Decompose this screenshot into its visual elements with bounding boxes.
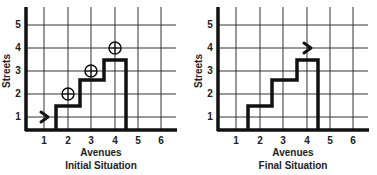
grid-lines [217,7,368,130]
x-tick: 4 [112,135,118,146]
y-axis-label: Streets [1,54,12,88]
panel-title: Final Situation [259,160,328,171]
panel-initial: 1 2 3 4 5 Streets 1 2 3 4 5 6 Avenues In… [1,7,177,171]
y-ticks: 1 2 3 4 5 [207,19,213,122]
boundary-walls [25,7,177,131]
beeper-icon [85,65,97,77]
x-tick: 4 [304,135,310,146]
y-tick: 2 [207,88,213,99]
y-ticks: 1 2 3 4 5 [15,19,21,122]
y-tick: 2 [15,88,21,99]
x-tick: 3 [88,135,94,146]
y-tick: 4 [15,42,21,53]
karel-diagram: 1 2 3 4 5 Streets 1 2 3 4 5 6 Avenues In… [0,0,377,175]
x-tick: 5 [327,135,333,146]
x-axis-label: Avenues [80,147,122,158]
y-tick: 4 [207,42,213,53]
y-tick: 5 [15,19,21,30]
x-tick: 3 [280,135,286,146]
x-tick: 2 [257,135,263,146]
beeper-icon [62,88,74,100]
y-tick: 3 [15,65,21,76]
boundary-walls [217,7,369,131]
x-tick: 1 [233,135,239,146]
x-tick: 5 [135,135,141,146]
panel-final: 1 2 3 4 5 Streets 1 2 3 4 5 6 Avenues Fi… [193,7,369,171]
x-tick: 6 [158,135,164,146]
x-tick: 6 [350,135,356,146]
x-ticks: 1 2 3 4 5 6 [41,135,164,146]
x-axis-label: Avenues [272,147,314,158]
beeper-icon [109,42,121,54]
y-tick: 3 [207,65,213,76]
panel-title: Initial Situation [65,160,137,171]
grid-lines [25,7,176,130]
y-tick: 5 [207,19,213,30]
y-tick: 1 [207,111,213,122]
x-tick: 1 [41,135,47,146]
x-ticks: 1 2 3 4 5 6 [233,135,356,146]
x-tick: 2 [65,135,71,146]
y-axis-label: Streets [193,54,204,88]
y-tick: 1 [15,111,21,122]
